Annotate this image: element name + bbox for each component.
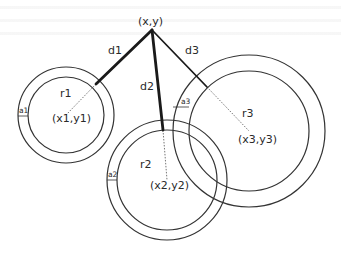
band-label-a3: a3 bbox=[181, 97, 191, 106]
distance-line-d3 bbox=[152, 30, 207, 87]
apex-label: (x,y) bbox=[138, 15, 163, 28]
band-label-a2: a2 bbox=[108, 170, 118, 179]
distance-label-d3: d3 bbox=[185, 44, 199, 57]
trilateration-diagram: a1r1(x1,y1)a2r2(x2,y2)a3r3(x3,y3)d1d2d3(… bbox=[0, 0, 341, 254]
distance-line-d1 bbox=[96, 30, 152, 84]
distance-label-d1: d1 bbox=[108, 44, 122, 57]
center-label-2: (x2,y2) bbox=[150, 179, 189, 192]
radius-label-r2: r2 bbox=[140, 158, 152, 171]
radius-line-2 bbox=[163, 130, 167, 180]
diagram-svg: a1r1(x1,y1)a2r2(x2,y2)a3r3(x3,y3)d1d2d3(… bbox=[0, 0, 341, 254]
radius-label-r1: r1 bbox=[60, 87, 72, 100]
distance-label-d2: d2 bbox=[140, 80, 154, 93]
center-label-3: (x3,y3) bbox=[238, 133, 277, 146]
center-label-1: (x1,y1) bbox=[52, 112, 91, 125]
radius-label-r3: r3 bbox=[242, 107, 254, 120]
band-label-a1: a1 bbox=[19, 106, 29, 115]
